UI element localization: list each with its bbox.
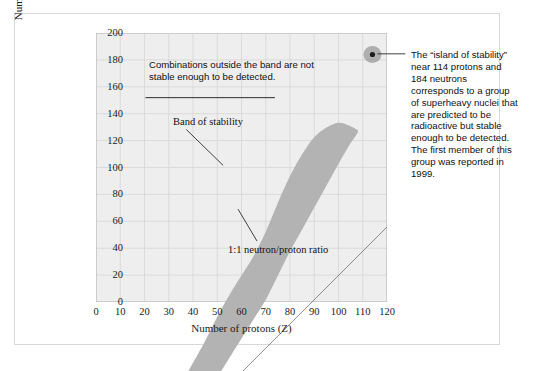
y-axis-title: Number of neutrons (N) xyxy=(12,0,24,67)
annotation-band-of-stability: Band of stability xyxy=(173,116,243,127)
y-tick-200: 200 xyxy=(83,28,123,38)
x-tick-120: 120 xyxy=(372,306,402,317)
y-tick-100: 100 xyxy=(83,163,123,173)
y-tick-20: 20 xyxy=(83,270,123,280)
y-tick-60: 60 xyxy=(83,216,123,226)
figure-frame: 200180160140120100806040200 010203040506… xyxy=(14,13,500,345)
y-tick-40: 40 xyxy=(83,243,123,253)
y-tick-180: 180 xyxy=(83,55,123,65)
annotation-combinations-outside-band: Combinations outside the band are not st… xyxy=(149,59,324,82)
y-tick-120: 120 xyxy=(83,136,123,146)
y-tick-80: 80 xyxy=(83,189,123,199)
annotation-island-of-stability: The “island of stability” near 114 proto… xyxy=(411,49,519,180)
y-tick-140: 140 xyxy=(83,109,123,119)
x-axis-title: Number of protons (Z) xyxy=(96,322,387,334)
island-of-stability-point xyxy=(370,52,375,57)
y-tick-160: 160 xyxy=(83,82,123,92)
annotation-neutron-proton-ratio: 1:1 neutron/proton ratio xyxy=(228,244,328,255)
